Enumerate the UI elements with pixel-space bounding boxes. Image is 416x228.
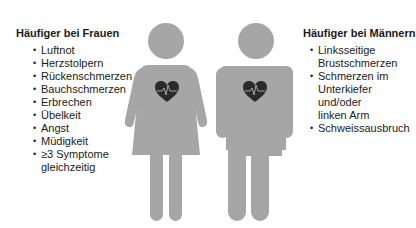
figures <box>0 0 416 228</box>
woman-figure-icon <box>125 23 207 221</box>
man-figure-icon <box>216 23 293 221</box>
